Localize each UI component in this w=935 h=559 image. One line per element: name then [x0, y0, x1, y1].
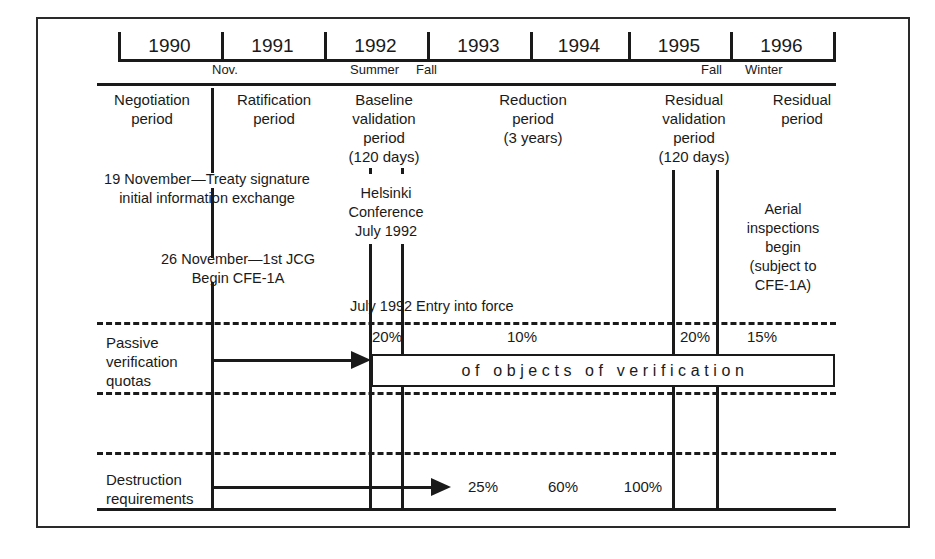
row-label-passive-verification: Passive verification quotas — [106, 333, 216, 390]
destruction-pct-60: 60% — [540, 478, 586, 496]
note-jcg: 26 November—1st JCG Begin CFE-1A — [152, 250, 324, 288]
passive-pct-20-1995: 20% — [675, 328, 715, 346]
period-title-baseline-validation: Baseline validation period (120 days) — [326, 90, 442, 166]
note-entry-into-force: July 1992 Entry into force — [350, 297, 514, 316]
year-tick-end — [833, 32, 836, 62]
season-label-summer: Summer — [350, 62, 399, 78]
bottom-rule — [97, 508, 836, 511]
year-label-1990: 1990 — [118, 35, 221, 57]
year-label-1994: 1994 — [530, 35, 628, 57]
season-label-fall-1992: Fall — [416, 62, 437, 78]
header-rule — [97, 83, 836, 86]
passive-row-top-dash — [97, 322, 836, 325]
year-label-1991: 1991 — [221, 35, 324, 57]
event-line-fall1992-cap — [401, 168, 404, 174]
passive-pct-10: 10% — [492, 328, 552, 346]
year-label-1995: 1995 — [628, 35, 730, 57]
objects-of-verification-box: of objects of verification — [371, 354, 835, 387]
destruction-pct-100: 100% — [615, 478, 671, 496]
season-label-fall-1995: Fall — [701, 62, 722, 78]
destruction-pct-25: 25% — [460, 478, 506, 496]
period-title-reduction: Reduction period (3 years) — [470, 90, 596, 147]
destruction-arrow-head — [431, 478, 451, 496]
note-aerial-inspections: Aerial inspections begin (subject to CFE… — [722, 200, 844, 295]
passive-pct-15: 15% — [736, 328, 788, 346]
period-title-negotiation: Negotiation period — [96, 90, 208, 128]
passive-arrow-head — [351, 351, 371, 369]
note-treaty-signature: 19 November—Treaty signature initial inf… — [78, 170, 336, 208]
event-line-winter1996 — [716, 170, 719, 510]
year-label-1993: 1993 — [427, 35, 530, 57]
period-title-residual: Residual period — [752, 90, 852, 128]
season-label-winter: Winter — [745, 62, 783, 78]
note-helsinki: Helsinki Conference July 1992 — [334, 184, 438, 241]
event-line-summer1992-cap — [369, 168, 372, 174]
passive-row-bottom-dash — [97, 392, 836, 395]
season-label-row: Nov. Summer Fall Fall Winter — [118, 62, 836, 82]
destruction-arrow-shaft — [211, 486, 433, 489]
event-line-nov1990-upper — [211, 88, 214, 173]
season-label-nov: Nov. — [212, 62, 238, 78]
cfe-timeline-figure: 1990 1991 1992 1993 1994 1995 1996 Nov. … — [0, 0, 935, 559]
period-title-residual-validation: Residual validation period (120 days) — [636, 90, 752, 166]
year-label-1996: 1996 — [730, 35, 833, 57]
objects-of-verification-text: of objects of verification — [458, 362, 749, 380]
year-axis: 1990 1991 1992 1993 1994 1995 1996 — [118, 28, 836, 62]
destruction-row-top-dash — [97, 452, 836, 455]
year-label-1992: 1992 — [324, 35, 427, 57]
period-title-ratification: Ratification period — [216, 90, 332, 128]
passive-pct-20-1992: 20% — [372, 328, 402, 346]
passive-arrow-shaft — [211, 359, 353, 362]
row-label-destruction-requirements: Destruction requirements — [106, 470, 224, 508]
